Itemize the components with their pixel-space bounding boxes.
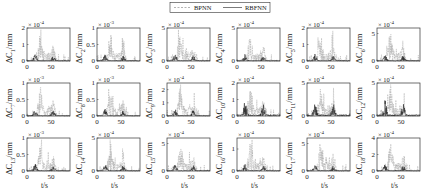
subplot-6: 05050× 10-4ΔC6/mm bbox=[354, 20, 420, 71]
exponent-label: × 10-4 bbox=[168, 75, 184, 83]
legend-rbfnn-label: RBFNN bbox=[245, 4, 267, 11]
bpnn-series bbox=[97, 89, 140, 116]
x-tick-label: 50 bbox=[257, 118, 265, 126]
exponent-label: × 10-4 bbox=[238, 75, 254, 83]
y-axis-label: ΔC4/mm bbox=[214, 33, 226, 63]
x-tick-label: 0 bbox=[25, 118, 29, 126]
exponent-label: × 10-3 bbox=[28, 75, 44, 83]
y-tick-label: 5 bbox=[302, 79, 306, 87]
x-tick-label: 0 bbox=[95, 63, 99, 71]
exponent-label: × 10-4 bbox=[98, 130, 114, 138]
y-tick-label: 5 bbox=[302, 140, 306, 148]
x-tick-label: 50 bbox=[117, 63, 125, 71]
x-tick-label: 50 bbox=[327, 173, 335, 181]
subplot-8: 00.51050× 10-3ΔC8/mm bbox=[74, 75, 140, 126]
subplot-10: 012050× 10-4ΔC10/mm bbox=[214, 75, 280, 126]
y-axis-label: ΔC16/mm bbox=[214, 142, 226, 175]
x-tick-label: 0 bbox=[25, 173, 29, 181]
bpnn-series bbox=[307, 31, 350, 61]
axes-box bbox=[377, 28, 420, 61]
x-tick-label: 0 bbox=[235, 118, 239, 126]
bpnn-series bbox=[377, 144, 420, 171]
bpnn-series bbox=[167, 30, 210, 61]
y-tick-label: 2 bbox=[302, 24, 306, 32]
x-tick-label: 0 bbox=[235, 173, 239, 181]
exponent-label: × 10-3 bbox=[98, 75, 114, 83]
subplot-2: 00.51050× 10-3ΔC2/mm bbox=[74, 20, 140, 71]
exponent-label: × 10-4 bbox=[238, 20, 254, 28]
y-tick-label: 5 bbox=[162, 24, 166, 32]
y-tick-label: 5 bbox=[372, 30, 376, 38]
exponent-label: × 10-4 bbox=[28, 20, 44, 28]
axes-box bbox=[97, 83, 140, 116]
exponent-label: × 10-4 bbox=[378, 75, 394, 83]
x-axis-label: t/s bbox=[41, 181, 48, 190]
x-tick-label: 0 bbox=[305, 63, 309, 71]
x-tick-label: 50 bbox=[187, 173, 195, 181]
subplot-13: 00.51050× 10-3ΔC13/mmt/s bbox=[4, 130, 70, 190]
x-tick-label: 0 bbox=[95, 118, 99, 126]
x-tick-label: 0 bbox=[25, 63, 29, 71]
y-axis-label: ΔC18/mm bbox=[354, 142, 366, 175]
y-axis-label: ΔC7/mm bbox=[4, 88, 16, 118]
axes-box bbox=[97, 138, 140, 171]
bpnn-series bbox=[27, 87, 70, 116]
exponent-label: × 10-4 bbox=[378, 20, 394, 28]
x-tick-label: 50 bbox=[47, 173, 55, 181]
subplot-18: 024050× 10-4ΔC18/mmt/s bbox=[354, 130, 420, 190]
y-axis-label: ΔC15/mm bbox=[144, 142, 156, 175]
x-tick-label: 50 bbox=[397, 173, 405, 181]
bpnn-series bbox=[307, 144, 350, 171]
y-tick-label: 1 bbox=[162, 99, 166, 107]
y-axis-label: ΔC11/mm bbox=[284, 87, 296, 120]
x-axis-label: t/s bbox=[111, 181, 118, 190]
x-tick-label: 0 bbox=[375, 118, 379, 126]
y-axis-label: ΔC2/mm bbox=[74, 33, 86, 63]
figure: BPNN RBFNN 012050× 10-4ΔC1/mm00.51050× 1… bbox=[0, 0, 424, 190]
y-tick-label: 2 bbox=[372, 151, 376, 159]
x-tick-label: 50 bbox=[47, 63, 55, 71]
x-tick-label: 50 bbox=[47, 118, 55, 126]
x-tick-label: 0 bbox=[165, 118, 169, 126]
axes-box bbox=[307, 138, 350, 171]
x-tick-label: 50 bbox=[187, 63, 195, 71]
y-tick-label: 2 bbox=[162, 86, 166, 94]
legend-bpnn-label: BPNN bbox=[194, 4, 212, 11]
y-tick-label: 0.5 bbox=[86, 41, 95, 49]
y-tick-label: 1 bbox=[232, 96, 236, 104]
y-tick-label: 0.5 bbox=[16, 96, 25, 104]
x-axis-label: t/s bbox=[321, 181, 328, 190]
axes-box bbox=[237, 138, 280, 171]
bpnn-series bbox=[167, 85, 210, 116]
x-tick-label: 0 bbox=[165, 173, 169, 181]
x-tick-label: 0 bbox=[305, 173, 309, 181]
x-tick-label: 0 bbox=[95, 173, 99, 181]
axes-box bbox=[377, 83, 420, 116]
x-tick-label: 50 bbox=[327, 63, 335, 71]
x-tick-label: 50 bbox=[397, 118, 405, 126]
y-tick-label: 4 bbox=[372, 134, 376, 142]
x-tick-label: 0 bbox=[235, 63, 239, 71]
x-tick-label: 50 bbox=[117, 118, 125, 126]
subplot-17: 05050× 10-4ΔC17/mmt/s bbox=[284, 130, 350, 190]
x-axis-label: t/s bbox=[391, 181, 398, 190]
x-tick-label: 0 bbox=[305, 118, 309, 126]
subplot-7: 00.51050× 10-3ΔC7/mm bbox=[4, 75, 70, 126]
y-axis-label: ΔC14/mm bbox=[74, 142, 86, 175]
y-tick-label: 0.5 bbox=[16, 151, 25, 159]
subplot-5: 012050× 10-4ΔC5/mm bbox=[284, 20, 350, 71]
x-tick-label: 0 bbox=[165, 63, 169, 71]
subplot-14: 05050× 10-4ΔC14/mmt/s bbox=[74, 130, 140, 190]
y-tick-label: 5 bbox=[232, 24, 236, 32]
exponent-label: × 10-4 bbox=[238, 130, 254, 138]
subplot-16: 01050× 10-4ΔC16/mmt/s bbox=[214, 130, 280, 190]
y-tick-label: 1 bbox=[92, 24, 96, 32]
y-tick-label: 5 bbox=[162, 140, 166, 148]
y-tick-label: 1 bbox=[92, 79, 96, 87]
x-axis-label: t/s bbox=[251, 181, 258, 190]
axes-box bbox=[167, 83, 210, 116]
bpnn-series bbox=[377, 85, 420, 116]
x-tick-label: 0 bbox=[375, 63, 379, 71]
x-tick-label: 50 bbox=[187, 118, 195, 126]
y-tick-label: 1 bbox=[302, 41, 306, 49]
